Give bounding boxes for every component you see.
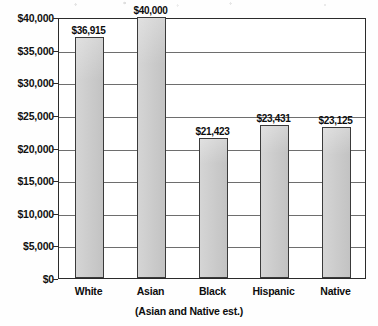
bar-value-label: $23,125 [301, 115, 371, 126]
chart-caption: (Asian and Native est.) [0, 305, 378, 317]
bar [260, 125, 289, 278]
y-axis-tick-mark [53, 279, 58, 280]
gridline [59, 52, 365, 53]
bar-value-label: $21,423 [178, 126, 248, 137]
bar-value-label: $40,000 [116, 5, 186, 16]
y-axis-tick-label: $40,000 [0, 12, 54, 24]
y-axis-tick-label: $15,000 [0, 175, 54, 187]
gridline [59, 84, 365, 85]
y-axis-tick-label: $30,000 [0, 77, 54, 89]
bar [322, 127, 351, 278]
y-axis-tick-label: $10,000 [0, 208, 54, 220]
y-axis-tick-label: $25,000 [0, 110, 54, 122]
bar [199, 138, 228, 278]
y-axis-tick-label: $35,000 [0, 45, 54, 57]
plot-area [58, 18, 366, 279]
scan-artifact [0, 0, 378, 10]
y-axis-tick-label: $0 [0, 273, 54, 285]
bar-value-label: $36,915 [54, 25, 124, 36]
bar-value-label: $23,431 [239, 113, 309, 124]
bar [137, 17, 166, 278]
y-axis-tick-label: $20,000 [0, 143, 54, 155]
bar [75, 37, 104, 278]
bar-chart: $40,000$35,000$30,000$25,000$20,000$15,0… [0, 0, 378, 326]
x-axis-category-label: Native [296, 285, 376, 297]
y-axis-tick-label: $5,000 [0, 240, 54, 252]
